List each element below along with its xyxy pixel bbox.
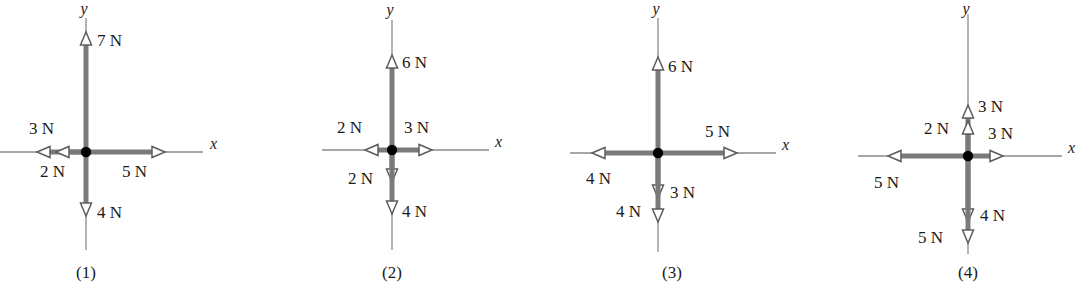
arrowhead-left (888, 151, 901, 162)
force-magnitude-label: 2 N (924, 119, 949, 138)
panel-caption: (4) (958, 263, 978, 282)
force-diagram-figure: 7 N4 N3 N2 N5 Nxy(1)6 N2 N4 N2 N3 Nxy(2)… (0, 0, 1082, 300)
arrowhead-right (724, 148, 737, 159)
force-diagram-panel: 6 N2 N4 N2 N3 Nxy(2) (322, 1, 502, 282)
force-magnitude-label: 7 N (97, 31, 122, 50)
force-diagrams-canvas: 7 N4 N3 N2 N5 Nxy(1)6 N2 N4 N2 N3 Nxy(2)… (0, 0, 1082, 300)
force-magnitude-label: 6 N (402, 53, 427, 72)
force-magnitude-label: 5 N (918, 228, 943, 247)
force-magnitude-label: 3 N (404, 118, 429, 137)
arrowhead-right (419, 145, 432, 156)
force-magnitude-label: 5 N (874, 173, 899, 192)
arrowhead-up (387, 55, 398, 68)
force-magnitude-label: 3 N (29, 119, 54, 138)
force-vector: 6 N (653, 57, 694, 153)
origin-point (81, 147, 91, 157)
force-magnitude-label: 6 N (668, 57, 693, 76)
force-magnitude-label: 4 N (616, 202, 641, 221)
arrowhead-left (37, 147, 50, 158)
force-diagram-panel: 6 N3 N4 N4 N5 Nxy(3) (570, 0, 789, 282)
arrowhead-right (152, 147, 165, 158)
force-diagram-panel: 7 N4 N3 N2 N5 Nxy(1) (0, 0, 217, 282)
force-vector: 5 N (658, 122, 737, 159)
arrowhead-left (592, 148, 605, 159)
arrowhead-left (56, 147, 69, 158)
arrowhead-down (81, 203, 92, 216)
x-axis-label: x (781, 136, 789, 153)
arrowhead-down (653, 209, 664, 222)
x-axis-label: x (494, 133, 502, 150)
force-magnitude-label: 3 N (988, 124, 1013, 143)
arrowhead-up (81, 32, 92, 45)
panel-caption: (1) (76, 263, 96, 282)
force-magnitude-label: 2 N (40, 162, 65, 181)
force-magnitude-label: 3 N (670, 183, 695, 202)
force-magnitude-label: 3 N (978, 97, 1003, 116)
origin-point (653, 148, 663, 158)
arrowhead-up (653, 57, 664, 70)
force-vector: 5 N (86, 147, 165, 182)
force-vector: 3 N (392, 118, 432, 156)
force-vector: 5 N (918, 156, 974, 247)
y-axis-label: y (78, 0, 88, 18)
panel-caption: (3) (662, 263, 682, 282)
arrowhead-down (387, 201, 398, 214)
panel-caption: (2) (382, 263, 402, 282)
force-vector: 4 N (81, 152, 123, 222)
force-magnitude-label: 5 N (122, 162, 147, 181)
origin-point (963, 151, 973, 161)
force-magnitude-label: 4 N (586, 169, 611, 188)
arrowhead-down (963, 230, 974, 243)
force-diagram-panel: 3 N2 N4 N5 N5 N3 Nxy(4) (858, 0, 1075, 282)
force-magnitude-label: 5 N (705, 122, 730, 141)
force-magnitude-label: 4 N (97, 203, 122, 222)
force-vector: 4 N (586, 148, 658, 189)
arrowhead-left (365, 145, 378, 156)
x-axis-label: x (209, 135, 217, 152)
force-vector: 2 N (924, 119, 974, 156)
y-axis-label: y (960, 0, 970, 18)
force-magnitude-label: 4 N (980, 206, 1005, 225)
x-axis-label: x (1067, 139, 1075, 156)
arrowhead-up (963, 105, 974, 118)
force-magnitude-label: 2 N (337, 118, 362, 137)
force-vector: 4 N (387, 150, 428, 221)
force-magnitude-label: 4 N (402, 202, 427, 221)
origin-point (387, 145, 397, 155)
force-magnitude-label: 2 N (348, 169, 373, 188)
force-vector: 5 N (874, 151, 968, 193)
y-axis-label: y (384, 1, 394, 19)
y-axis-label: y (650, 0, 660, 18)
arrowhead-right (990, 151, 1003, 162)
force-vector: 4 N (616, 153, 664, 222)
force-vector: 7 N (81, 31, 123, 152)
arrowhead-up (963, 121, 974, 134)
